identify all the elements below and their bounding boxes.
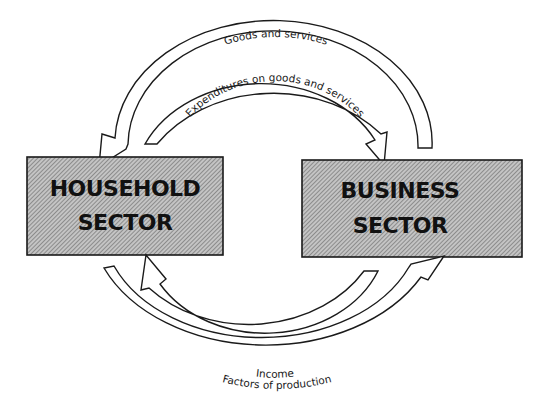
circular-flow-diagram: HOUSEHOLD SECTOR BUSINESS SECTOR Goods a… bbox=[0, 0, 548, 409]
business-sector-box: BUSINESS SECTOR bbox=[302, 160, 522, 257]
income-label: Income bbox=[255, 367, 294, 380]
expenditures-arrow bbox=[145, 84, 387, 165]
business-sector-label-line2: SECTOR bbox=[353, 213, 448, 238]
business-sector-label-line1: BUSINESS bbox=[341, 178, 460, 203]
expenditures-label: Expenditures on goods and services bbox=[183, 71, 367, 119]
household-sector-label-line1: HOUSEHOLD bbox=[50, 176, 201, 201]
household-sector-box: HOUSEHOLD SECTOR bbox=[27, 157, 223, 255]
household-sector-label-line2: SECTOR bbox=[78, 210, 173, 235]
